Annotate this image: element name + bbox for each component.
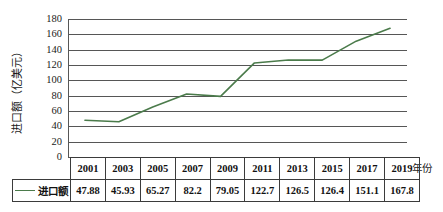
plot-area [68, 19, 407, 157]
y-axis-title: 进口额（亿美元） [8, 20, 26, 158]
legend-label: 进口额 [38, 183, 68, 198]
table-header-cell-2019: 2019 [385, 158, 420, 180]
table-data-cell-2003: 45.93 [105, 180, 140, 202]
table-data-cell-2007: 82.2 [175, 180, 210, 202]
table-header-cell-2003: 2003 [105, 158, 140, 180]
y-axis-tick-labels: 180160140120100806040200 [34, 19, 64, 157]
table-header-row: 2001200320052007200920112013201520172019 [13, 158, 420, 180]
table-header-cell-2007: 2007 [175, 158, 210, 180]
y-axis-tick-100: 100 [46, 75, 62, 86]
y-axis-tick-80: 80 [52, 90, 63, 101]
table-data-cell-2005: 65.27 [140, 180, 175, 202]
table-data-cell-2011: 122.7 [245, 180, 280, 202]
legend-cell: 进口额 [13, 180, 71, 202]
y-axis-title-text: 进口额（亿美元） [12, 45, 23, 133]
table-header-cell-2015: 2015 [315, 158, 350, 180]
table-data-cell-2017: 151.1 [350, 180, 385, 202]
y-axis-tick-180: 180 [46, 14, 62, 25]
y-axis-tick-160: 160 [46, 29, 62, 40]
table-header-cell-2011: 2011 [245, 158, 280, 180]
table-header-cell-2013: 2013 [280, 158, 315, 180]
table-header-cell-2005: 2005 [140, 158, 175, 180]
table-data-row: 进口额 47.8845.9365.2782.279.05122.7126.512… [13, 180, 420, 202]
y-axis-tick-140: 140 [46, 44, 62, 55]
y-axis-tick-60: 60 [52, 106, 63, 117]
series-line-svg [68, 19, 407, 157]
table-header-cell-2017: 2017 [350, 158, 385, 180]
table-data-cell-2013: 126.5 [280, 180, 315, 202]
y-axis-tick-120: 120 [46, 60, 62, 71]
chart-container: 进口额（亿美元） 180160140120100806040200 年份 200… [0, 0, 443, 212]
table-data-cell-2001: 47.88 [71, 180, 106, 202]
y-axis-tick-20: 20 [52, 136, 63, 147]
y-axis-tick-40: 40 [52, 121, 63, 132]
table-header-corner-blank [13, 158, 71, 180]
data-table: 2001200320052007200920112013201520172019… [12, 157, 420, 202]
series-polyline-import-value [85, 28, 390, 121]
table-data-cell-2015: 126.4 [315, 180, 350, 202]
table-header-cell-2009: 2009 [210, 158, 245, 180]
table-data-cell-2019: 167.8 [385, 180, 420, 202]
table-data-cell-2009: 79.05 [210, 180, 245, 202]
table-header-cell-2001: 2001 [71, 158, 106, 180]
legend-line-swatch-icon [15, 190, 35, 191]
